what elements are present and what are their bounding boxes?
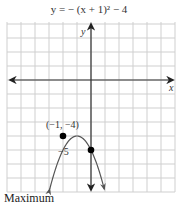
vertex-point — [60, 133, 67, 140]
caption: Maximum — [4, 191, 54, 206]
x-axis-label: x — [168, 82, 174, 93]
y-intercept-point — [88, 147, 95, 154]
vertex-label: (−1, −4) — [46, 119, 79, 131]
y-intercept-label: −5 — [58, 146, 69, 157]
graph: y x (−1, −4) −5 — [0, 0, 178, 206]
y-axis-label: y — [80, 26, 86, 37]
